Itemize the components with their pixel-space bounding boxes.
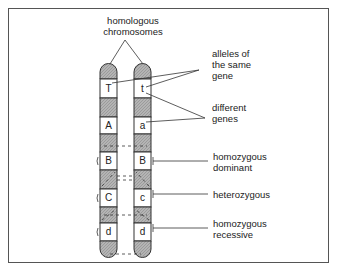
label-line: gene bbox=[212, 70, 251, 81]
label-line: recessive bbox=[213, 229, 267, 240]
different-genes-label: different genes bbox=[212, 102, 246, 124]
label-line: alleles of bbox=[212, 48, 251, 59]
chromosome-diagram bbox=[0, 0, 337, 269]
allele-right-3: B bbox=[134, 155, 151, 166]
heterozygous-label: heterozygous bbox=[213, 189, 270, 200]
label-line: genes bbox=[212, 113, 246, 124]
allele-right-2: a bbox=[134, 120, 151, 131]
homozygous-recessive-label: homozygous recessive bbox=[213, 218, 267, 240]
label-line: heterozygous bbox=[213, 189, 270, 200]
label-line: homozygous bbox=[213, 151, 267, 162]
label-line: homozygous bbox=[213, 218, 267, 229]
label-line: the same bbox=[212, 59, 251, 70]
alleles-same-gene-label: alleles of the same gene bbox=[212, 48, 251, 81]
allele-left-5: d bbox=[100, 226, 117, 237]
allele-right-1: t bbox=[134, 83, 151, 94]
allele-left-4: C bbox=[100, 192, 117, 203]
homozygous-dominant-label: homozygous dominant bbox=[213, 151, 267, 173]
allele-right-4: c bbox=[134, 192, 151, 203]
allele-left-3: B bbox=[100, 155, 117, 166]
allele-right-5: d bbox=[134, 226, 151, 237]
label-line: dominant bbox=[213, 162, 267, 173]
label-line: different bbox=[212, 102, 246, 113]
allele-left-1: T bbox=[100, 83, 117, 94]
allele-left-2: A bbox=[100, 120, 117, 131]
